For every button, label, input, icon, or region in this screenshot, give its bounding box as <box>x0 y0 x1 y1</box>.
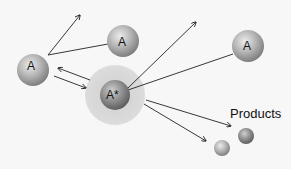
molecule-label: A <box>243 39 251 53</box>
molecule-a-left: A <box>17 54 49 86</box>
arrow-left-up <box>48 15 80 55</box>
products-label: Products <box>230 106 281 121</box>
arrow-to-product-2 <box>144 104 206 141</box>
product-sphere <box>238 128 254 144</box>
collision-diagram: A A A A* Products <box>0 0 291 169</box>
molecule-a-top: A <box>107 25 139 57</box>
activated-label: A* <box>106 88 119 102</box>
arrow-to-activated <box>54 76 86 88</box>
line-left-to-top <box>48 44 108 55</box>
molecule-label: A <box>118 35 126 49</box>
activated-molecule: A* <box>100 80 130 110</box>
product-sphere <box>214 140 230 156</box>
line-activated-to-right <box>128 54 233 90</box>
molecule-a-right: A <box>232 30 264 62</box>
diagram-svg: A A A A* <box>0 0 291 169</box>
molecule-label: A <box>27 59 35 73</box>
arrow-to-left <box>58 68 90 80</box>
